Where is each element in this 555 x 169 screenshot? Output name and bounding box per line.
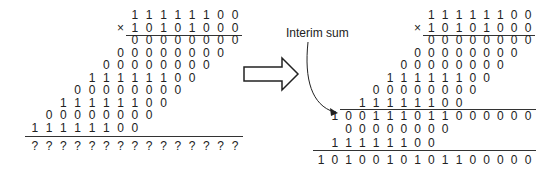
interim-sum-label: Interim sum bbox=[286, 26, 349, 40]
transition-arrow-graphic bbox=[0, 0, 555, 169]
block-arrow-icon bbox=[244, 58, 298, 90]
curved-pointer-arrow-icon bbox=[307, 42, 338, 116]
